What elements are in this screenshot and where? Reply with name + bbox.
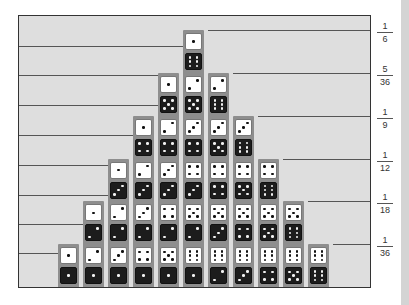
pip	[242, 189, 245, 192]
pip	[288, 208, 291, 211]
pip	[271, 271, 274, 274]
white-die-5	[235, 204, 252, 221]
pip	[192, 212, 195, 215]
pip	[171, 251, 174, 254]
pip	[163, 193, 166, 196]
pip	[239, 259, 242, 262]
pip	[221, 99, 224, 102]
left-gridline	[19, 224, 83, 225]
pip	[163, 236, 166, 239]
pip	[188, 215, 191, 218]
pip	[221, 208, 224, 211]
pip	[196, 65, 199, 68]
pip	[92, 274, 95, 277]
pip	[163, 173, 166, 176]
pip	[221, 165, 224, 168]
pip	[171, 258, 174, 261]
pip	[142, 189, 145, 192]
y-tick-label: 112	[374, 150, 396, 173]
black-die-3	[210, 224, 227, 241]
pip	[213, 185, 216, 188]
fraction-bar	[377, 32, 393, 33]
pip	[246, 235, 249, 238]
left-gridline	[19, 75, 158, 76]
fraction-denominator: 18	[374, 205, 396, 215]
white-die-6	[260, 247, 277, 264]
right-gridline	[333, 244, 370, 245]
pip	[213, 215, 216, 218]
pip	[296, 259, 299, 262]
pip	[321, 279, 324, 282]
pip	[271, 185, 274, 188]
black-die-4	[185, 139, 202, 156]
pip	[246, 165, 249, 168]
pip	[192, 189, 195, 192]
pip	[321, 274, 324, 277]
black-die-6	[285, 224, 302, 241]
pip	[296, 271, 299, 274]
pip	[188, 107, 191, 110]
pip	[271, 193, 274, 196]
pip	[221, 103, 224, 106]
pip	[121, 207, 124, 210]
pip	[213, 165, 216, 168]
pip	[271, 228, 274, 231]
bar-sum-8	[208, 73, 229, 287]
pip	[246, 122, 249, 125]
pip	[238, 173, 241, 176]
pip	[192, 126, 195, 129]
fraction-numerator: 1	[374, 21, 396, 31]
pip	[113, 259, 116, 262]
pip	[196, 227, 199, 230]
pip	[196, 259, 199, 262]
pip	[296, 278, 299, 281]
pip	[217, 126, 220, 129]
pip	[321, 270, 324, 273]
pip	[196, 142, 199, 145]
pip	[171, 185, 174, 188]
bar-sum-9	[233, 116, 254, 287]
pip	[271, 235, 274, 238]
black-die-4	[135, 139, 152, 156]
pip	[113, 193, 116, 196]
black-die-3	[235, 267, 252, 284]
white-die-2	[210, 76, 227, 93]
black-die-1	[85, 267, 102, 284]
left-gridline	[19, 105, 158, 106]
pip	[221, 227, 224, 230]
white-die-6	[210, 247, 227, 264]
pip	[217, 212, 220, 215]
pip	[264, 259, 267, 262]
fraction-bar	[377, 246, 393, 247]
pip	[163, 150, 166, 153]
pip	[242, 274, 245, 277]
pip	[296, 227, 299, 230]
pip	[163, 208, 166, 211]
black-die-6	[210, 96, 227, 113]
pip	[213, 279, 216, 282]
black-die-1	[135, 267, 152, 284]
pip	[138, 251, 141, 254]
fraction-denominator: 9	[374, 120, 396, 130]
pip	[289, 259, 292, 262]
pip	[238, 208, 241, 211]
pip	[221, 193, 224, 196]
pip	[238, 165, 241, 168]
white-die-3	[210, 119, 227, 136]
pip	[239, 142, 242, 145]
black-die-6	[260, 182, 277, 199]
pip	[271, 254, 274, 257]
pip	[142, 126, 145, 129]
pip	[214, 107, 217, 110]
black-die-5	[235, 182, 252, 199]
pip	[264, 254, 267, 257]
pip	[167, 83, 170, 86]
white-die-5	[210, 204, 227, 221]
pip	[296, 232, 299, 235]
pip	[167, 274, 170, 277]
black-die-2	[210, 267, 227, 284]
right-gridline	[308, 201, 370, 202]
pip	[196, 215, 199, 218]
black-die-4	[210, 182, 227, 199]
white-die-1	[160, 76, 177, 93]
